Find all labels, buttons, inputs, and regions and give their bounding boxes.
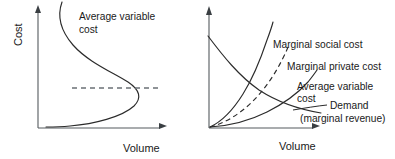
right-x-axis-label: Volume (279, 140, 316, 152)
left-avc-label-line1: Average variable (79, 11, 156, 22)
right-demand-label-line2: (marginal revenue) (300, 113, 386, 124)
right-average-variable-cost-label-line1: Average variable (297, 81, 374, 92)
average-variable-cost-panel: Cost Volume Average variable cost (0, 0, 198, 159)
left-x-axis-label: Volume (123, 142, 160, 154)
left-avc-label-line2: cost (79, 24, 98, 35)
left-y-axis-arrow-icon (35, 5, 41, 13)
right-y-axis-arrow-icon (206, 6, 212, 15)
economics-cost-curves-figure: Cost Volume Average variable cost Margin… (0, 0, 395, 159)
right-average-variable-cost-label-line2: cost (297, 93, 316, 104)
left-x-axis-arrow-icon (159, 123, 167, 129)
right-demand-label-line1: Demand (330, 100, 369, 111)
right-marginal-private-cost-curve (210, 47, 288, 127)
marginal-cost-panel: Marginal social cost Marginal private co… (195, 0, 395, 159)
right-marginal-social-cost-label: Marginal social cost (273, 39, 363, 50)
left-y-axis-label: Cost (12, 23, 24, 46)
right-marginal-private-cost-label: Marginal private cost (287, 61, 381, 72)
